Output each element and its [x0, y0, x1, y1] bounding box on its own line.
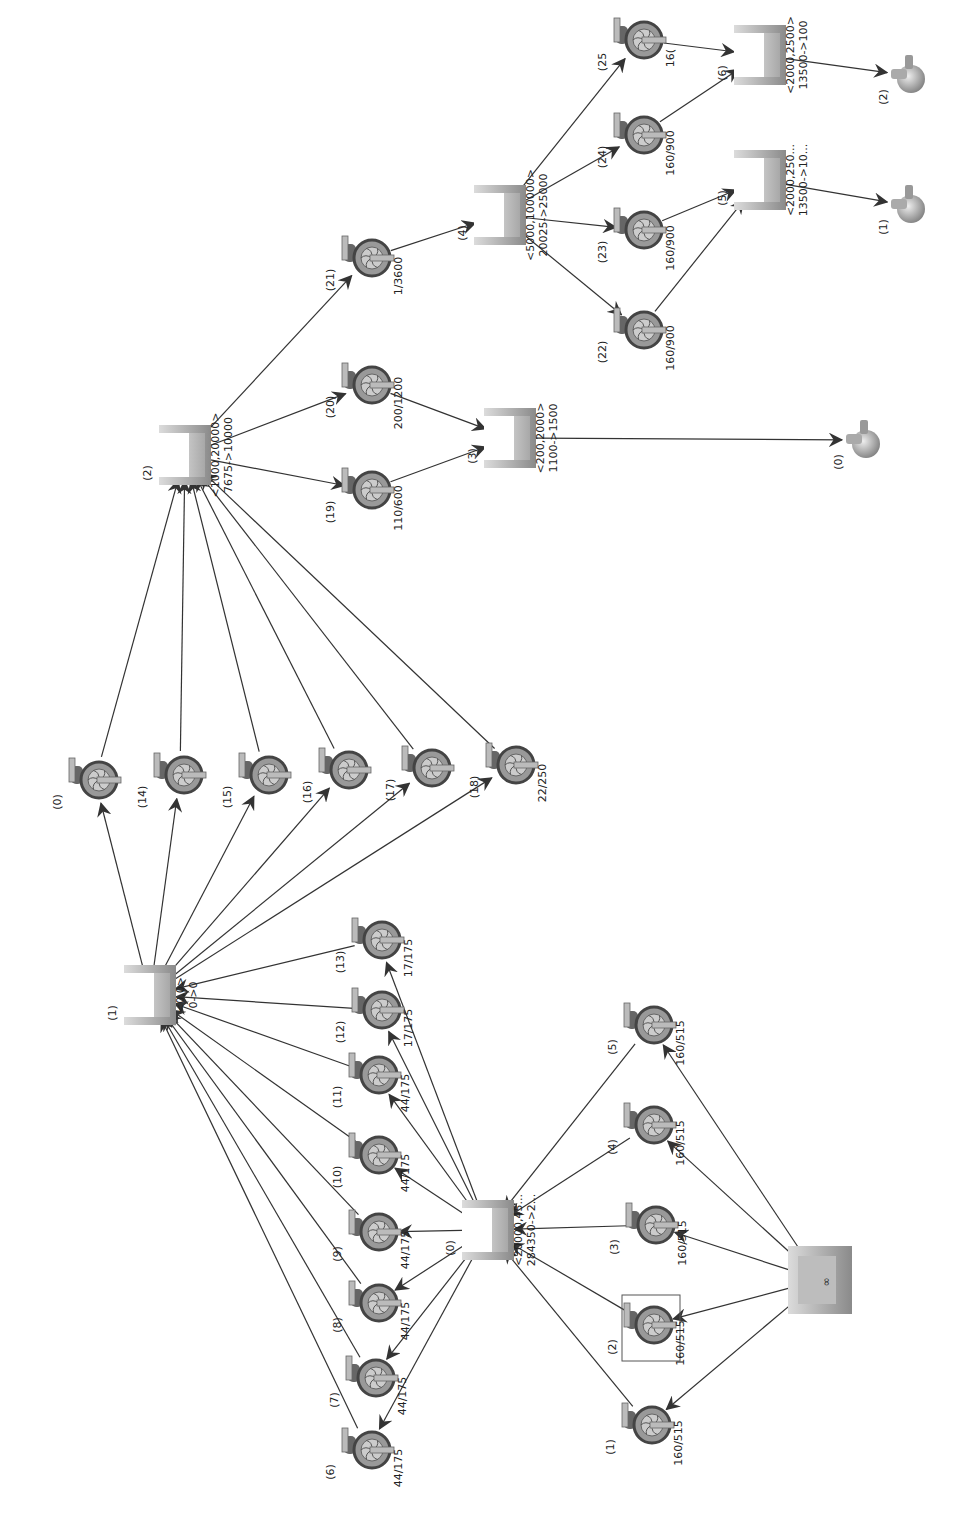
pump-node[interactable] — [319, 748, 371, 788]
tank-label: (1) — [106, 1005, 119, 1021]
tank-node[interactable] — [474, 185, 526, 245]
pump-node[interactable] — [349, 1210, 401, 1250]
inlet-pipe-icon — [370, 1447, 394, 1453]
inlet-pipe-icon — [377, 1072, 401, 1078]
tank-node[interactable] — [462, 1200, 514, 1260]
inlet-pipe-icon — [374, 1375, 398, 1381]
pump-label: (7) — [328, 1392, 341, 1408]
infinity-icon: ∞ — [820, 1277, 833, 1286]
inlet-pipe-icon — [514, 762, 538, 768]
tank-node[interactable] — [734, 150, 786, 210]
inlet-pipe-icon — [650, 1422, 674, 1428]
pump-capacity: 160/515 — [674, 1120, 687, 1166]
edge-p5-t0 — [504, 1044, 635, 1210]
tank-node[interactable] — [124, 965, 176, 1025]
pump-label: (19) — [324, 501, 337, 524]
pipe-icon — [624, 1003, 630, 1027]
inlet-pipe-icon — [380, 1007, 404, 1013]
pump-node[interactable] — [69, 758, 121, 798]
tank-water — [154, 973, 170, 1017]
pipe-icon — [239, 753, 245, 777]
pump-label: (22) — [596, 341, 609, 364]
tank-label: (2) — [141, 465, 154, 481]
sink-node[interactable] — [891, 55, 925, 93]
pump-node[interactable] — [349, 1133, 401, 1173]
tank-water — [189, 433, 205, 477]
tank-node[interactable] — [484, 408, 536, 468]
pump-node[interactable] — [346, 1356, 398, 1396]
tank-node[interactable] — [734, 25, 786, 85]
edge-p0b-t2 — [101, 480, 178, 757]
pipe-icon — [624, 1103, 630, 1127]
pump-node[interactable] — [349, 1053, 401, 1093]
sink-node[interactable] — [891, 185, 925, 223]
pump-capacity: 17/175 — [402, 939, 415, 978]
edge-p12-t1 — [176, 997, 354, 1009]
pump-node[interactable] — [349, 1281, 401, 1321]
edge-p8-t1 — [165, 1016, 361, 1284]
tank-opening — [484, 416, 514, 460]
tank-flow: 0->0 — [187, 981, 200, 1008]
pump-node[interactable] — [624, 1003, 676, 1043]
pump-label: (24) — [596, 146, 609, 169]
pump-label: (16) — [301, 781, 314, 804]
tank-water — [764, 158, 780, 202]
pump-node[interactable] — [352, 988, 404, 1028]
pump-label: (2) — [606, 1339, 619, 1355]
tank-opening — [124, 973, 154, 1017]
pump-node[interactable] — [614, 113, 666, 153]
inlet-pipe-icon — [380, 937, 404, 943]
pump-node[interactable] — [622, 1295, 680, 1361]
edge-t1-p14 — [154, 799, 177, 969]
pump-capacity: 44/175 — [399, 1154, 412, 1193]
pipe-icon — [69, 758, 75, 782]
pipe-icon — [624, 1303, 630, 1327]
pipe-icon — [319, 748, 325, 772]
pump-node[interactable] — [486, 743, 538, 783]
inlet-pipe-icon — [642, 227, 666, 233]
pipe-icon — [342, 236, 348, 260]
inlet-pipe-icon — [182, 772, 206, 778]
source-node[interactable]: ∞ — [788, 1246, 852, 1314]
pump-label: (20) — [324, 396, 337, 419]
pump-node[interactable] — [342, 363, 394, 403]
pump-label: (4) — [606, 1139, 619, 1155]
tank-node[interactable] — [159, 425, 211, 485]
tank-flow: 1100->1500 — [547, 403, 560, 472]
pump-node[interactable] — [614, 308, 666, 348]
edge-p10-t1 — [171, 1010, 355, 1141]
inlet-pipe-icon — [370, 487, 394, 493]
inlet-pipe-icon — [652, 1022, 676, 1028]
pump-label: (5) — [606, 1039, 619, 1055]
pump-node[interactable] — [342, 1428, 394, 1468]
pump-label: (0) — [51, 794, 64, 810]
tank-range: <2000,2500> — [784, 16, 797, 94]
flow-network-diagram: (0)<20000,45...284350->2...(1)<0,0>0->0(… — [0, 0, 958, 1518]
pump-node[interactable] — [614, 208, 666, 248]
pipe-icon — [614, 18, 620, 42]
pump-node[interactable] — [342, 236, 394, 276]
pump-node[interactable] — [614, 18, 666, 58]
inlet-pipe-icon — [642, 327, 666, 333]
inlet-pipe-icon — [97, 777, 121, 783]
pump-node[interactable] — [352, 918, 404, 958]
pump-node[interactable] — [626, 1203, 678, 1243]
pipe-icon — [342, 1428, 348, 1452]
inlet-pipe-icon — [377, 1300, 401, 1306]
pipe-icon — [342, 468, 348, 492]
pump-node[interactable] — [239, 753, 291, 793]
pump-capacity: 160/900 — [664, 225, 677, 271]
nodes-layer: (0)<20000,45...284350->2...(1)<0,0>0->0(… — [51, 16, 925, 1487]
tank-flow: 7675->10000 — [222, 417, 235, 493]
pump-node[interactable] — [402, 746, 454, 786]
pump-node[interactable] — [624, 1103, 676, 1143]
sink-node[interactable] — [846, 420, 880, 458]
tank-label: (6) — [716, 65, 729, 81]
tank-range: <0,0> — [174, 977, 187, 1013]
pump-node[interactable] — [342, 468, 394, 508]
tank-range: <5000,100000> — [524, 169, 537, 261]
tank-flow: 284350->2... — [525, 1194, 538, 1267]
pipe-icon — [154, 753, 160, 777]
pump-node[interactable] — [154, 753, 206, 793]
edge-t3-s0 — [536, 438, 842, 440]
